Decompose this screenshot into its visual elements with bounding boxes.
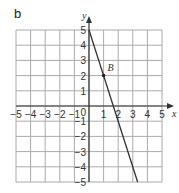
y-tick-label: −5 [75, 177, 87, 188]
x-tick-label: 1 [101, 109, 107, 120]
x-tick-label: 3 [130, 109, 136, 120]
x-tick-label: −5 [10, 109, 22, 120]
y-tick-label: 3 [80, 55, 86, 66]
y-axis-label: y [81, 10, 87, 21]
y-tick-label: −4 [75, 162, 87, 173]
y-tick-label: 1 [80, 86, 86, 97]
y-tick-label: −3 [75, 147, 87, 158]
coordinate-grid-chart: xy−5−4−3−2−11234554321−1−2−3−4−50B [0, 0, 179, 193]
y-tick-label: −2 [75, 131, 87, 142]
y-tick-label: 2 [80, 71, 86, 82]
x-axis-label: x [171, 108, 177, 119]
y-tick-label: 5 [80, 25, 86, 36]
point-marker [102, 74, 106, 78]
y-tick-label: 4 [80, 40, 86, 51]
x-tick-label: −2 [54, 109, 66, 120]
point-label: B [108, 62, 114, 73]
x-tick-label: 4 [145, 109, 151, 120]
x-tick-label: −4 [25, 109, 37, 120]
y-arrow-icon [86, 16, 92, 23]
origin-label: 0 [80, 107, 86, 118]
x-tick-label: 5 [159, 109, 165, 120]
x-tick-label: −3 [39, 109, 51, 120]
